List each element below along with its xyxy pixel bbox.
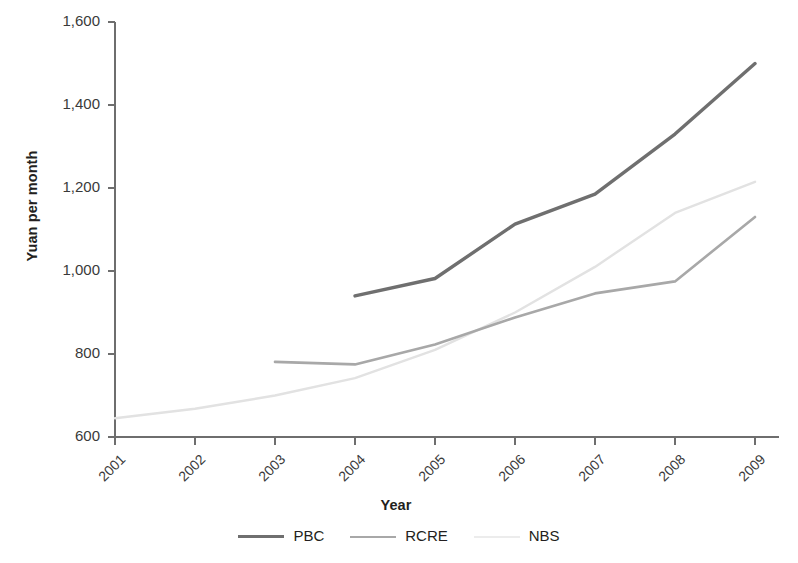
series-lines-group — [115, 64, 755, 419]
series-line-rcre — [275, 217, 755, 364]
series-line-nbs — [115, 182, 755, 418]
axis-lines — [115, 22, 779, 437]
line-chart-canvas — [0, 0, 798, 563]
legend-item-nbs: NBS — [474, 528, 560, 545]
legend-swatch-icon — [474, 536, 520, 538]
chart-figure: 6008001,0001,2001,4001,600 2001200220032… — [0, 0, 798, 563]
y-tick-label: 1,200 — [34, 178, 100, 195]
legend-swatch-icon — [238, 535, 284, 538]
chart-legend: PBCRCRENBS — [0, 528, 798, 545]
x-axis-title: Year — [336, 497, 456, 513]
y-tick-label: 1,600 — [34, 12, 100, 29]
axis-tick-marks — [108, 22, 755, 445]
y-tick-label: 1,000 — [34, 261, 100, 278]
legend-item-rcre: RCRE — [350, 528, 448, 545]
legend-item-pbc: PBC — [238, 528, 324, 545]
series-line-pbc — [355, 64, 755, 296]
y-tick-label: 1,400 — [34, 95, 100, 112]
y-tick-label: 600 — [34, 427, 100, 444]
legend-swatch-icon — [350, 536, 396, 538]
legend-label: NBS — [529, 528, 560, 545]
y-tick-label: 800 — [34, 344, 100, 361]
legend-label: PBC — [293, 528, 324, 545]
y-axis-title: Yuan per month — [24, 126, 40, 286]
legend-label: RCRE — [405, 528, 448, 545]
